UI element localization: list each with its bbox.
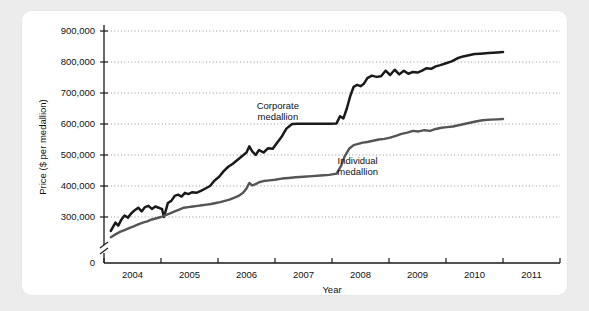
x-tick-label: 2007 [293, 269, 314, 280]
y-axis-title: Price ($ per medallion) [37, 99, 48, 195]
series-line-individual-medallion [111, 119, 503, 237]
y-tick-label: 400,000 [61, 180, 95, 191]
x-tick-label: 2010 [464, 269, 485, 280]
x-tick-label: 2006 [236, 269, 257, 280]
page-background: 0300,000400,000500,000600,000700,000800,… [0, 0, 589, 311]
annotation-label-line2: medallion [337, 166, 378, 177]
annotation-label-line2: medallion [258, 111, 299, 122]
y-tick-label: 900,000 [61, 25, 95, 36]
x-tick-label: 2011 [521, 269, 541, 280]
y-tick-labels-group: 0300,000400,000500,000600,000700,000800,… [61, 25, 95, 268]
x-axis-title: Year [322, 284, 341, 295]
y-tick-label: 600,000 [61, 118, 95, 129]
series-line-corporate-medallion [111, 52, 503, 231]
x-tick-label: 2005 [179, 269, 200, 280]
x-tick-label: 2009 [407, 269, 428, 280]
line-chart: 0300,000400,000500,000600,000700,000800,… [0, 0, 589, 311]
annotation-label-line1: Corporate [257, 100, 299, 111]
x-tick-labels-group: 20042005200620072008200920102011 [122, 269, 542, 280]
x-tick-label: 2004 [122, 269, 143, 280]
y-tick-label: 500,000 [61, 149, 95, 160]
y-tick-label: 700,000 [61, 87, 95, 98]
x-tick-label: 2008 [350, 269, 371, 280]
y-tick-label: 0 [90, 257, 95, 268]
series-group [111, 52, 503, 237]
x-axis-group [100, 25, 560, 263]
annotation-label-line1: Individual [338, 155, 378, 166]
y-tick-label: 800,000 [61, 56, 95, 67]
series-annotations-group: CorporatemedallionIndividualmedallion [257, 100, 378, 177]
y-tick-label: 300,000 [61, 211, 95, 222]
